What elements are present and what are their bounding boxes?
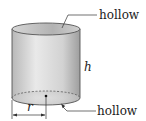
cylinder-body <box>12 29 80 105</box>
radius-label: r <box>27 101 33 113</box>
top-opening <box>12 23 80 35</box>
bottom-hollow-leader <box>61 104 96 112</box>
top-hollow-label: hollow <box>99 9 139 21</box>
height-label: h <box>84 61 92 73</box>
center-dot <box>45 95 48 98</box>
bottom-hollow-label: hollow <box>97 105 137 117</box>
